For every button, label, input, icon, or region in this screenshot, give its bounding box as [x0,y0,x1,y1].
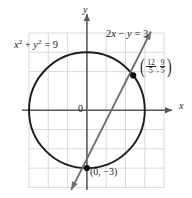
circle-eq-equals: = [42,39,53,50]
circle-eq-plus: + [22,39,33,50]
intersection-y-fraction: 9 5 [160,59,166,75]
graph-figure: x2 + y2 = 9 2x − y = 3 0 x y (0, −3) ( 1… [0,0,192,198]
y-axis-label: y [83,5,87,15]
line-eq-rhs: 3 [143,28,148,39]
y-axis-arrow [84,14,90,21]
origin-label: 0 [78,104,83,114]
point-marker-intersection [130,72,136,78]
intersection-comma: , [157,66,159,75]
line-equation-label: 2x − y = 3 [106,29,148,40]
intersection-point-label: ( 12 5 , 9 5 ) [139,58,173,75]
bottom-point-label: (0, −3) [90,167,117,177]
intersection-x-fraction: 12 5 [146,59,156,75]
intersection-y-numerator: 9 [160,59,166,67]
line-arrow-lower [71,181,77,190]
intersection-x-numerator: 12 [146,59,156,67]
line-eq-equals: = [132,28,143,39]
intersection-x-denominator: 5 [148,67,154,75]
x-axis-label: x [179,101,183,111]
line-eq-minus: − [116,28,127,39]
intersection-close-paren: ) [167,58,172,75]
circle-equation-label: x2 + y2 = 9 [14,40,58,51]
circle-eq-rhs: 9 [53,39,58,50]
intersection-open-paren: ( [140,58,145,75]
intersection-y-denominator: 5 [160,67,166,75]
x-axis-arrow [165,107,172,113]
